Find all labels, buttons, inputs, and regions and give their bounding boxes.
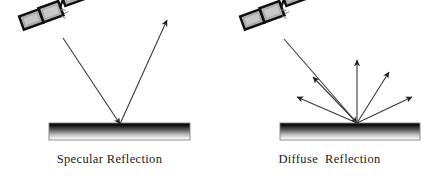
reflection-diagram-figure: Specular Reflection — [0, 0, 439, 184]
reflected-ray — [120, 20, 167, 124]
satellite-body — [38, 1, 63, 22]
satellite-icon — [16, 0, 88, 33]
satellite-panel-right — [282, 0, 306, 6]
smooth-surface — [49, 123, 190, 140]
incident-ray — [63, 38, 120, 124]
panel-specular-reflection: Specular Reflection — [0, 0, 219, 184]
incident-ray — [284, 39, 357, 123]
panel-diffuse-reflection: Diffuse Reflection — [220, 0, 439, 184]
scattered-ray-1 — [297, 97, 357, 123]
diffuse-diagram — [220, 0, 439, 150]
satellite-icon — [237, 0, 309, 33]
specular-diagram — [0, 0, 219, 150]
rough-surface — [280, 123, 420, 140]
caption-diffuse: Diffuse Reflection — [220, 152, 439, 167]
satellite-body — [259, 1, 284, 22]
satellite-panel-right — [61, 0, 85, 6]
caption-specular: Specular Reflection — [0, 152, 219, 167]
scattered-ray-2 — [313, 77, 357, 123]
